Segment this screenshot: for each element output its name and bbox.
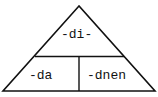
triangle-diagram	[0, 0, 158, 97]
bottom-left-label: -da	[29, 69, 52, 82]
bottom-right-label: -dnen	[87, 69, 126, 82]
top-label: -di-	[61, 28, 92, 41]
